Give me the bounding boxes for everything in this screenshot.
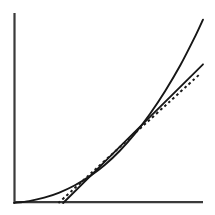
plot-canvas — [0, 0, 215, 215]
approximation-line — [58, 74, 200, 203]
figure-container — [0, 0, 215, 215]
tangent-line — [63, 64, 203, 203]
convex-curve — [14, 20, 203, 203]
